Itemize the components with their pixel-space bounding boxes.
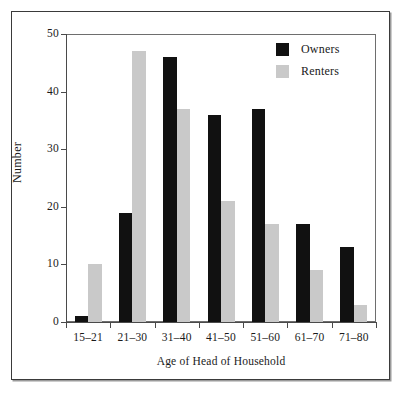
legend-item-owners: Owners	[276, 38, 372, 60]
legend-swatch-owners-icon	[276, 43, 289, 56]
x-axis-tick	[332, 323, 333, 328]
x-axis-tick	[287, 323, 288, 328]
legend-label-owners: Owners	[301, 42, 340, 57]
x-axis-title: Age of Head of Household	[66, 355, 376, 367]
x-axis-category-label: 41–50	[199, 331, 243, 343]
bar-renters-41-50	[221, 201, 235, 322]
y-axis-tick-label: 20	[19, 201, 59, 213]
legend-label-renters: Renters	[301, 64, 339, 79]
y-axis-tick-label: 50	[19, 28, 59, 40]
bar-owners-61-70	[296, 224, 310, 322]
bar-owners-31-40	[163, 57, 177, 322]
x-axis-line	[66, 322, 377, 323]
x-axis-category-label: 51–60	[243, 331, 287, 343]
figure-root: Number 01020304050 15–2121–3031–4041–505…	[0, 0, 414, 395]
x-axis-tick	[110, 323, 111, 328]
bar-owners-41-50	[208, 115, 222, 322]
bar-renters-15-21	[88, 264, 102, 322]
x-axis-tick	[66, 323, 67, 328]
y-axis-tick-labels: 01020304050	[12, 0, 59, 395]
bar-renters-21-30	[132, 51, 146, 322]
y-axis-tick-label: 40	[19, 86, 59, 98]
bar-renters-51-60	[265, 224, 279, 322]
x-axis-tick	[376, 323, 377, 328]
x-axis-category-label: 21–30	[110, 331, 154, 343]
bar-owners-71-80	[340, 247, 354, 322]
legend-swatch-renters-icon	[276, 65, 289, 78]
bar-owners-15-21	[75, 316, 89, 322]
x-axis-tick	[155, 323, 156, 328]
bar-owners-21-30	[119, 213, 133, 322]
x-axis-category-label: 61–70	[287, 331, 331, 343]
y-axis-tick-label: 30	[19, 143, 59, 155]
x-axis-tick	[243, 323, 244, 328]
y-axis-tick-label: 10	[19, 258, 59, 270]
bar-renters-31-40	[177, 109, 191, 322]
legend-item-renters: Renters	[276, 60, 372, 82]
bar-renters-71-80	[354, 305, 368, 322]
x-axis-tick	[199, 323, 200, 328]
legend: Owners Renters	[276, 38, 372, 82]
x-axis-category-label: 31–40	[155, 331, 199, 343]
bar-renters-61-70	[310, 270, 324, 322]
bar-owners-51-60	[252, 109, 266, 322]
y-axis-tick-label: 0	[19, 316, 59, 328]
x-axis-category-label: 15–21	[66, 331, 110, 343]
x-axis-category-label: 71–80	[332, 331, 376, 343]
